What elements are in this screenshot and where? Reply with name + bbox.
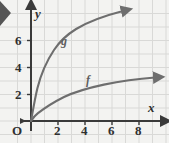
curve-label-g: g [61,35,67,47]
origin-label: O [12,124,22,137]
x-tick-label-2: 2 [54,124,61,137]
plot-canvas [0,0,169,143]
y-tick-label-6: 6 [15,34,22,47]
x-tick-label-8: 8 [135,124,142,137]
y-tick-label-2: 2 [15,88,22,101]
left-pointer-icon [0,0,14,32]
x-tick-label-6: 6 [108,124,115,137]
x-tick-label-4: 4 [81,124,88,137]
y-axis-label: y [35,7,41,20]
graph-figure: y x O 6 4 2 2 4 6 8 g f [0,0,169,143]
y-tick-label-4: 4 [15,61,22,74]
x-axis-label: x [148,101,155,114]
curve-label-f: f [86,74,90,86]
